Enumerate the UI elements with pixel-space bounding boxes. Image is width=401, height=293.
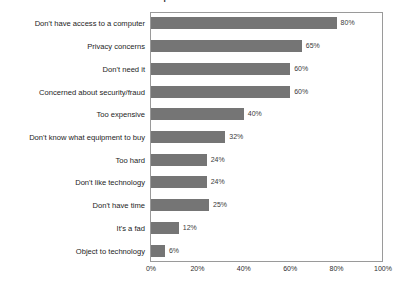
bar [151,40,302,52]
bar-value-label: 32% [229,133,243,141]
category-label: It's a fad [0,223,145,232]
bar-row: Object to technology6% [0,245,401,257]
bar-row: Don't like technology24% [0,176,401,188]
x-tick-label: 0% [146,264,156,273]
bar [151,154,207,166]
bar [151,199,209,211]
bar-value-label: 6% [169,247,179,255]
bar-value-label: 60% [294,65,308,73]
bar-value-label: 25% [213,201,227,209]
bar-row: Too hard24% [0,154,401,166]
bar [151,17,337,29]
chart-title: Reasons People Don't Use The Web At Home [0,0,401,2]
bar-value-label: 24% [211,156,225,164]
bar-value-label: 60% [294,88,308,96]
bar-row: Concerned about security/fraud60% [0,86,401,98]
x-tick-label: 100% [374,264,392,273]
category-label: Concerned about security/fraud [0,87,145,96]
bar-value-label: 24% [211,178,225,186]
bar-value-label: 40% [248,110,262,118]
bar-row: Privacy concerns65% [0,40,401,52]
bar-chart: Reasons People Don't Use The Web At Home… [0,0,401,293]
category-label: Don't have access to a computer [0,19,145,28]
bar-value-label: 65% [306,42,320,50]
x-tick-label: 80% [330,264,344,273]
bar-row: Don't know what equipment to buy32% [0,131,401,143]
bar-row: It's a fad12% [0,222,401,234]
bar [151,245,165,257]
bar-rows: Don't have access to a computer80%Privac… [0,12,401,262]
x-tick-label: 40% [237,264,251,273]
category-label: Too expensive [0,110,145,119]
category-label: Don't need it [0,64,145,73]
x-axis: 0%20%40%60%80%100% [150,264,383,278]
bar [151,222,179,234]
bar-value-label: 80% [341,19,355,27]
category-label: Privacy concerns [0,42,145,51]
category-label: Too hard [0,155,145,164]
x-tick-label: 60% [283,264,297,273]
bar [151,131,225,143]
category-label: Don't like technology [0,178,145,187]
x-tick-label: 20% [190,264,204,273]
category-label: Don't have time [0,201,145,210]
bar [151,63,290,75]
bar-row: Don't have time25% [0,199,401,211]
category-label: Object to technology [0,246,145,255]
bar [151,108,244,120]
bar-row: Don't have access to a computer80% [0,17,401,29]
bar [151,176,207,188]
bar-row: Don't need it60% [0,63,401,75]
bar [151,86,290,98]
category-label: Don't know what equipment to buy [0,133,145,142]
bar-row: Too expensive40% [0,108,401,120]
bar-value-label: 12% [183,224,197,232]
